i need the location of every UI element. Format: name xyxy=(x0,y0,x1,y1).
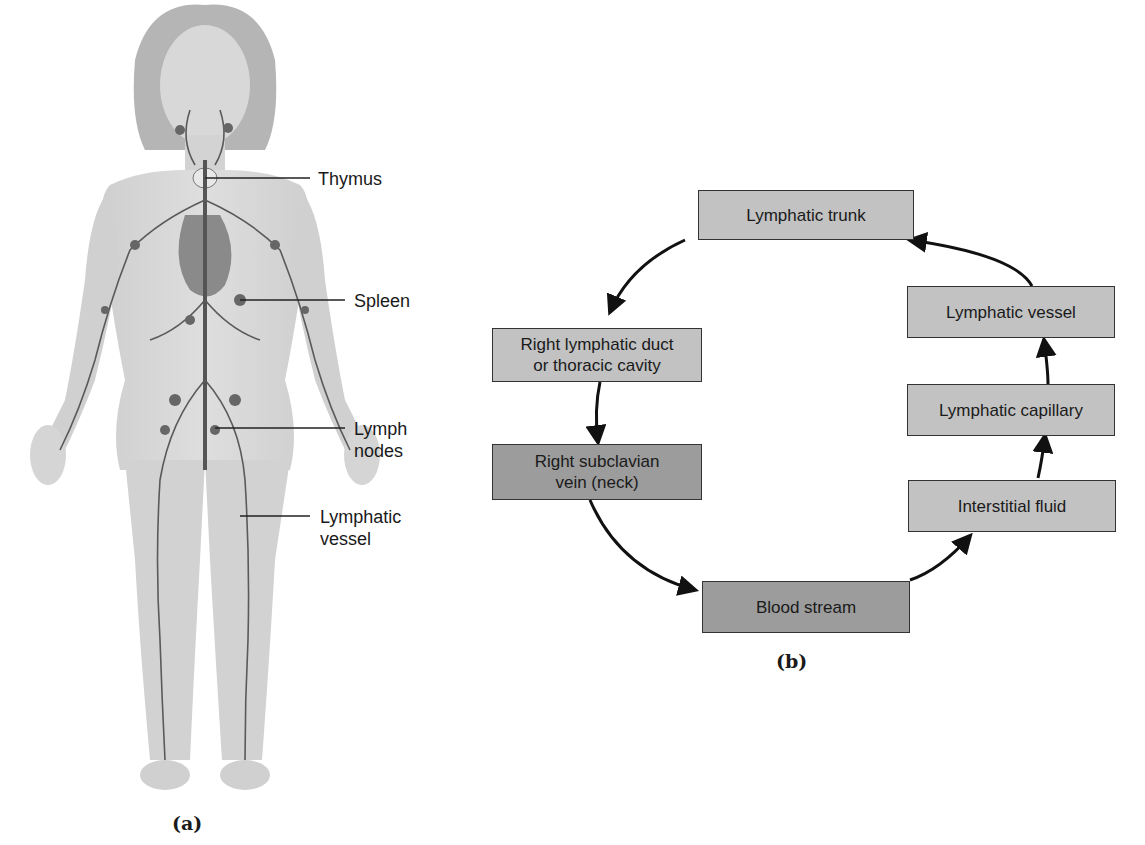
label-lymph-nodes-line1: Lymph xyxy=(354,418,407,440)
label-lymph-nodes: Lymph nodes xyxy=(354,418,407,462)
caption-b: (b) xyxy=(776,650,807,672)
label-spleen: Spleen xyxy=(354,290,410,312)
box-right-lymphatic-duct-line1: Right lymphatic duct xyxy=(520,334,673,355)
panel-b-lymph-flow-diagram: Lymphatic trunk Right lymphatic duct or … xyxy=(470,0,1145,845)
panel-a-lymphatic-anatomy: Thymus Spleen Lymph nodes Lymphatic vess… xyxy=(0,0,470,845)
label-lymphatic-vessel-line2: vessel xyxy=(320,528,401,550)
box-right-lymphatic-duct-line2: or thoracic cavity xyxy=(520,355,673,376)
box-blood-stream: Blood stream xyxy=(702,581,910,633)
box-right-subclavian-vein: Right subclavian vein (neck) xyxy=(492,444,702,500)
label-lymphatic-vessel: Lymphatic vessel xyxy=(320,506,401,550)
box-right-lymphatic-duct: Right lymphatic duct or thoracic cavity xyxy=(492,328,702,382)
box-lymphatic-capillary: Lymphatic capillary xyxy=(907,384,1115,436)
box-right-subclavian-line1: Right subclavian xyxy=(535,451,660,472)
box-lymphatic-trunk: Lymphatic trunk xyxy=(698,190,914,240)
caption-a: (a) xyxy=(172,812,202,834)
box-lymphatic-vessel: Lymphatic vessel xyxy=(907,286,1115,338)
box-interstitial-fluid: Interstitial fluid xyxy=(908,480,1116,532)
label-lymphatic-vessel-line1: Lymphatic xyxy=(320,506,401,528)
label-lymph-nodes-line2: nodes xyxy=(354,440,407,462)
box-right-subclavian-line2: vein (neck) xyxy=(535,472,660,493)
label-thymus: Thymus xyxy=(318,168,382,190)
